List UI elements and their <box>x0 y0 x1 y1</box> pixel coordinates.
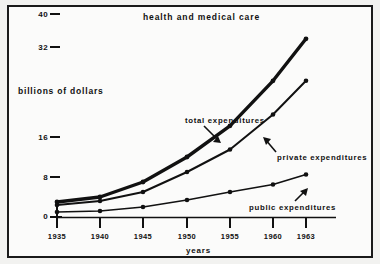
y-tick-label-32: 32 <box>26 43 48 52</box>
annotation-public-expenditures: public expenditures <box>249 203 336 212</box>
x-tick-label-1945: 1945 <box>126 232 160 241</box>
annotation-private-expenditures: private expenditures <box>277 153 367 162</box>
x-axis-title: years <box>186 246 211 255</box>
chart-screenshot: health and medical care billions of doll… <box>0 0 380 264</box>
chart-title: health and medical care <box>143 12 260 22</box>
x-tick-label-1950: 1950 <box>170 232 204 241</box>
y-tick-label-16: 16 <box>26 133 48 142</box>
x-tick-label-1940: 1940 <box>83 232 117 241</box>
x-tick-label-1955: 1955 <box>213 232 247 241</box>
y-axis-title: billions of dollars <box>18 86 104 96</box>
x-tick-label-1963: 1963 <box>289 232 323 241</box>
x-tick-label-1960: 1960 <box>256 232 290 241</box>
figure-border <box>7 5 373 258</box>
y-tick-label-8: 8 <box>26 173 48 182</box>
annotation-total-expenditures: total expenditures <box>185 116 265 125</box>
x-tick-label-1935: 1935 <box>40 232 74 241</box>
y-tick-label-40: 40 <box>26 10 48 19</box>
y-tick-label-0: 0 <box>26 212 48 221</box>
